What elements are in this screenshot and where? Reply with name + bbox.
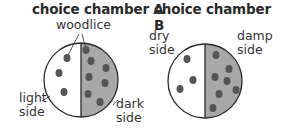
woodlouse-icon xyxy=(97,98,104,106)
woodlouse-icon xyxy=(61,88,68,96)
chamber-a xyxy=(42,34,121,120)
woodlouse-icon xyxy=(83,46,90,54)
woodlouse-icon xyxy=(184,55,191,63)
woodlouse-icon xyxy=(103,64,110,72)
woodlouse-icon xyxy=(224,77,231,85)
woodlouse-icon xyxy=(212,73,219,81)
woodlouse-icon xyxy=(213,51,220,59)
woodlouse-icon xyxy=(102,79,109,87)
woodlouse-icon xyxy=(216,90,223,98)
woodlouse-icon xyxy=(86,73,93,81)
woodlouse-icon xyxy=(190,76,197,84)
woodlouse-icon xyxy=(226,65,233,73)
chamber-b xyxy=(168,42,245,122)
woodlouse-icon xyxy=(177,85,184,93)
woodlouse-icon xyxy=(210,104,217,112)
woodlouse-icon xyxy=(233,86,240,94)
woodlouse-icon xyxy=(56,69,63,77)
diagram-canvas xyxy=(0,0,285,133)
woodlouse-icon xyxy=(88,57,95,65)
woodlouse-icon xyxy=(85,90,92,98)
leader-line xyxy=(113,100,118,105)
woodlouse-icon xyxy=(64,54,71,62)
